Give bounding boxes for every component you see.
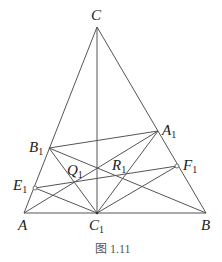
point-E1-marker [33, 186, 37, 190]
segment-E1F1 [35, 166, 177, 188]
label-Q1: Q1 [67, 162, 83, 180]
label-R1: R1 [111, 157, 126, 175]
label-A1: A1 [161, 122, 176, 140]
segment-B1A1 [49, 131, 158, 148]
label-C: C [91, 7, 102, 23]
label-F1: F1 [182, 157, 197, 175]
label-B: B [201, 217, 210, 233]
label-C1: C1 [89, 217, 104, 235]
segment-CA [24, 27, 97, 213]
label-B1: B1 [29, 139, 43, 157]
label-E1: E1 [12, 177, 27, 195]
label-A: A [17, 217, 28, 233]
figure-caption: 图 1.11 [95, 242, 131, 256]
point-C1-marker [96, 212, 99, 215]
geometry-figure: C A B C1 A1 B1 E1 F1 Q1 R1 图 1.11 [0, 0, 222, 262]
segments [24, 27, 206, 213]
segment-CB [97, 27, 206, 213]
point-F1-marker [175, 164, 179, 168]
